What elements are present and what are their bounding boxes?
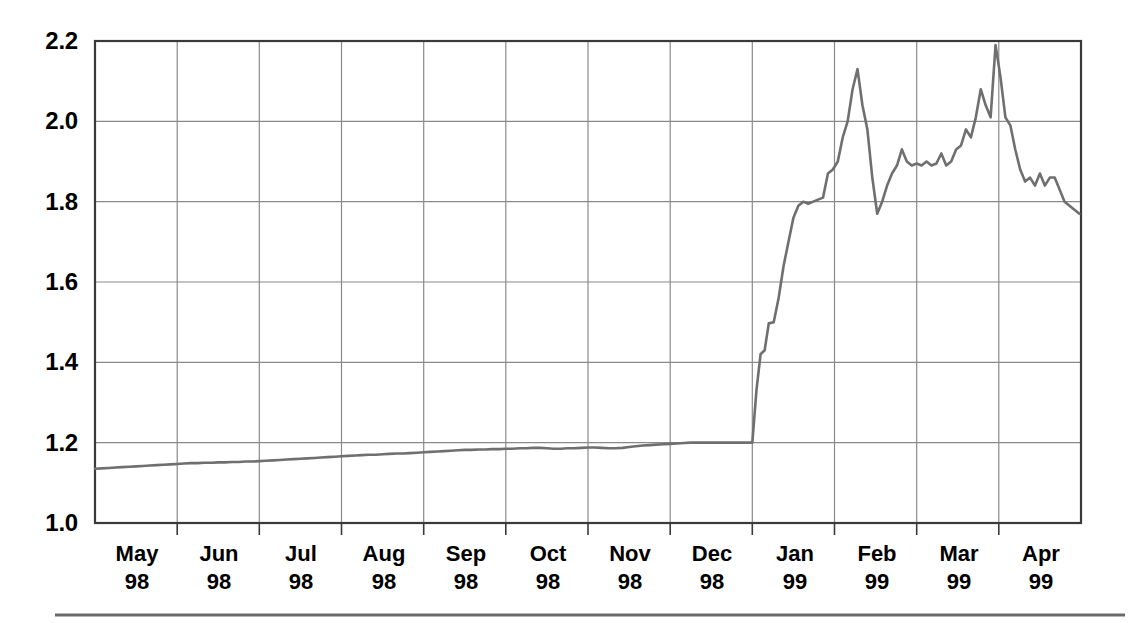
- xtick-label-9: Feb 99: [836, 540, 918, 596]
- xtick-year-1: 98: [178, 568, 260, 596]
- xtick-year-0: 98: [96, 568, 178, 596]
- xtick-label-6: Nov 98: [589, 540, 671, 596]
- line-chart-plot: [0, 0, 1133, 623]
- ytick-label-1_4: 1.4: [18, 348, 78, 376]
- xtick-label-8: Jan 99: [754, 540, 836, 596]
- xtick-year-5: 98: [507, 568, 589, 596]
- xtick-month-1: Jun: [178, 540, 260, 568]
- xtick-year-3: 98: [343, 568, 425, 596]
- xtick-label-3: Aug 98: [343, 540, 425, 596]
- xtick-month-3: Aug: [343, 540, 425, 568]
- xtick-year-7: 98: [671, 568, 753, 596]
- ytick-label-1_8: 1.8: [18, 188, 78, 216]
- xtick-label-11: Apr 99: [1000, 540, 1082, 596]
- ytick-label-2_0: 2.0: [18, 107, 78, 135]
- xtick-year-2: 98: [260, 568, 342, 596]
- xtick-month-10: Mar: [918, 540, 1000, 568]
- xtick-label-10: Mar 99: [918, 540, 1000, 596]
- xtick-month-9: Feb: [836, 540, 918, 568]
- xtick-month-5: Oct: [507, 540, 589, 568]
- ytick-label-1_6: 1.6: [18, 268, 78, 296]
- ytick-label-2_2: 2.2: [18, 27, 78, 55]
- xtick-year-10: 99: [918, 568, 1000, 596]
- xtick-label-1: Jun 98: [178, 540, 260, 596]
- xtick-year-9: 99: [836, 568, 918, 596]
- xtick-year-11: 99: [1000, 568, 1082, 596]
- xtick-month-6: Nov: [589, 540, 671, 568]
- ytick-label-1_2: 1.2: [18, 429, 78, 457]
- xtick-year-6: 98: [589, 568, 671, 596]
- xtick-month-4: Sep: [425, 540, 507, 568]
- xtick-year-8: 99: [754, 568, 836, 596]
- xtick-label-5: Oct 98: [507, 540, 589, 596]
- xtick-label-4: Sep 98: [425, 540, 507, 596]
- xtick-label-2: Jul 98: [260, 540, 342, 596]
- data-series-line: [95, 45, 1079, 469]
- xtick-month-8: Jan: [754, 540, 836, 568]
- chart-figure: 2.2 2.0 1.8 1.6 1.4 1.2 1.0 May 98 Jun 9…: [0, 0, 1133, 623]
- xtick-label-0: May 98: [96, 540, 178, 596]
- axis-tick-marks: [177, 523, 999, 535]
- ytick-label-1_0: 1.0: [18, 509, 78, 537]
- xtick-month-7: Dec: [671, 540, 753, 568]
- xtick-label-7: Dec 98: [671, 540, 753, 596]
- xtick-month-2: Jul: [260, 540, 342, 568]
- xtick-month-0: May: [96, 540, 178, 568]
- xtick-month-11: Apr: [1000, 540, 1082, 568]
- xtick-year-4: 98: [425, 568, 507, 596]
